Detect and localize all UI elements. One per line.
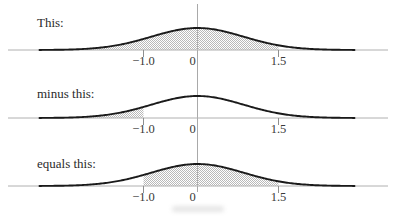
tick-label: 1.5 [271, 190, 287, 204]
shaded-region [40, 28, 279, 50]
panel-label: This: [37, 15, 64, 30]
panel-label: equals this: [37, 156, 96, 171]
tick-label: 0 [189, 190, 195, 204]
shaded-region [144, 164, 279, 186]
faint-caption-smudge [172, 206, 224, 212]
tick-label: −1.0 [132, 190, 155, 204]
tick-label: −1.0 [132, 54, 155, 68]
tick-label: 1.5 [271, 54, 287, 68]
tick-label: −1.0 [132, 122, 155, 136]
panel-label: minus this: [37, 86, 94, 101]
figure-canvas: −1.001.5This:−1.001.5minus this:−1.001.5… [0, 0, 394, 216]
tick-label: 1.5 [271, 122, 287, 136]
normal-distribution-figure: −1.001.5This:−1.001.5minus this:−1.001.5… [0, 0, 394, 216]
tick-label: 0 [189, 54, 195, 68]
tick-label: 0 [189, 122, 195, 136]
